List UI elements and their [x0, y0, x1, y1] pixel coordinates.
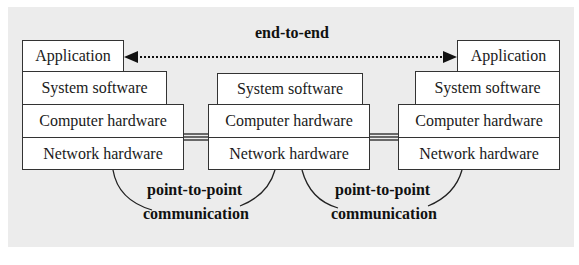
link-middle-right — [369, 134, 398, 140]
p2p-label-left-line2: communication — [143, 205, 249, 223]
layer-application-left: Application — [22, 40, 124, 72]
layer-system-software-right: System software — [415, 71, 560, 105]
layer-application-right: Application — [457, 40, 560, 72]
p2p-label-right-line1: point-to-point — [335, 181, 430, 199]
p2p-label-right-line2: communication — [331, 205, 437, 223]
layer-system-software-left: System software — [22, 71, 167, 105]
end-to-end-label: end-to-end — [255, 24, 329, 42]
arrow-right-icon — [443, 51, 457, 63]
layer-computer-hardware-middle: Computer hardware — [208, 104, 370, 138]
layer-computer-hardware-left: Computer hardware — [22, 104, 184, 138]
link-left-middle — [183, 134, 208, 140]
layer-network-hardware-right: Network hardware — [398, 137, 560, 170]
arrow-left-icon — [124, 51, 138, 63]
layer-system-software-middle: System software — [217, 73, 363, 105]
layer-network-hardware-middle: Network hardware — [208, 137, 370, 170]
layer-network-hardware-left: Network hardware — [22, 137, 184, 170]
end-to-end-arrow — [124, 51, 457, 63]
p2p-label-left-line1: point-to-point — [147, 181, 242, 199]
layer-computer-hardware-right: Computer hardware — [398, 104, 560, 138]
